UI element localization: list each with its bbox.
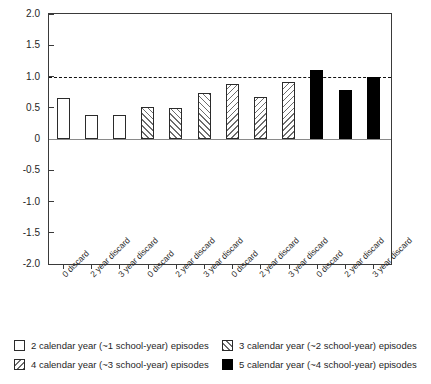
bar <box>339 90 352 139</box>
reference-line-dashed <box>49 77 391 78</box>
legend-item: 2 calendar year (~1 school-year) episode… <box>14 340 222 352</box>
legend-swatch-hatch-back-icon <box>14 359 25 370</box>
bar <box>226 84 239 139</box>
y-tick-mark <box>49 107 54 108</box>
legend-label: 3 calendar year (~2 school-year) episode… <box>239 340 417 352</box>
y-tick-mark <box>49 170 54 171</box>
bar <box>198 93 211 139</box>
y-tick-label: -2.0 <box>23 257 40 270</box>
plot-area: 2.01.51.00.50-0.5-1.0-1.5-2.0 <box>48 13 392 265</box>
legend-swatch-hatch-fwd-icon <box>222 340 233 351</box>
chart-legend: 2 calendar year (~1 school-year) episode… <box>14 336 424 374</box>
y-tick-mark <box>49 14 54 15</box>
legend-swatch-solid-icon <box>222 359 233 370</box>
bar <box>254 97 267 139</box>
chart-figure: 2.01.51.00.50-0.5-1.0-1.5-2.0 0 discard2… <box>0 0 431 384</box>
bar <box>282 82 295 139</box>
bar <box>310 70 323 139</box>
legend-item: 5 calendar year (~4 school-year) episode… <box>222 359 422 371</box>
y-tick-mark <box>49 232 54 233</box>
bar <box>57 98 70 139</box>
bar <box>141 107 154 140</box>
y-tick-label: -1.5 <box>23 226 40 239</box>
y-tick-label: 2.0 <box>26 7 40 20</box>
y-tick-label: 1.5 <box>26 38 40 51</box>
bar <box>169 108 182 139</box>
y-tick-label: -0.5 <box>23 163 40 176</box>
y-tick-label: 0 <box>34 132 40 145</box>
legend-row: 2 calendar year (~1 school-year) episode… <box>14 336 424 355</box>
y-tick-mark <box>49 264 54 265</box>
y-tick-mark <box>49 45 54 46</box>
legend-row: 4 calendar year (~3 school-year) episode… <box>14 355 424 374</box>
y-tick-label: 1.0 <box>26 70 40 83</box>
bar <box>113 115 126 139</box>
bar <box>85 115 98 139</box>
y-tick-label: 0.5 <box>26 101 40 114</box>
legend-label: 4 calendar year (~3 school-year) episode… <box>31 359 209 371</box>
bar <box>367 77 380 140</box>
legend-label: 5 calendar year (~4 school-year) episode… <box>239 359 417 371</box>
legend-item: 4 calendar year (~3 school-year) episode… <box>14 359 222 371</box>
y-tick-label: -1.0 <box>23 195 40 208</box>
legend-item: 3 calendar year (~2 school-year) episode… <box>222 340 422 352</box>
legend-label: 2 calendar year (~1 school-year) episode… <box>31 340 209 352</box>
zero-baseline <box>49 139 391 140</box>
y-tick-mark <box>49 201 54 202</box>
legend-swatch-open-icon <box>14 340 25 351</box>
